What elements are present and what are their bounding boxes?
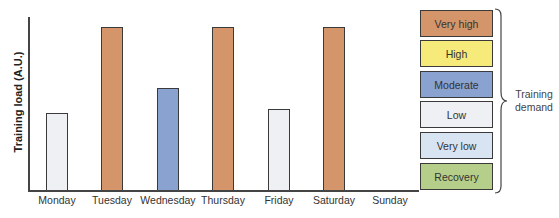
legend-title-line2: demand xyxy=(509,101,559,114)
bar-tuesday xyxy=(101,27,123,190)
legend-low: Low xyxy=(420,101,493,128)
bar-friday xyxy=(268,109,290,190)
legend-high: High xyxy=(420,40,493,67)
y-axis-line xyxy=(28,17,30,191)
legend-very-low: Very low xyxy=(420,132,493,159)
x-tick-sunday: Sunday xyxy=(355,194,425,206)
bar-monday xyxy=(46,113,68,190)
legend-title-line1: Training xyxy=(509,88,559,101)
legend-very-high: Very high xyxy=(420,10,493,37)
bar-saturday xyxy=(323,27,345,190)
y-axis-label: Training load (A.U.) xyxy=(12,32,24,172)
legend-recovery: Recovery xyxy=(420,163,493,190)
legend-moderate: Moderate xyxy=(420,71,493,98)
brace-icon xyxy=(494,8,510,194)
bar-wednesday xyxy=(157,88,179,190)
x-axis-line xyxy=(28,190,419,192)
bar-thursday xyxy=(212,27,234,190)
legend-title: Training demand xyxy=(509,88,559,114)
